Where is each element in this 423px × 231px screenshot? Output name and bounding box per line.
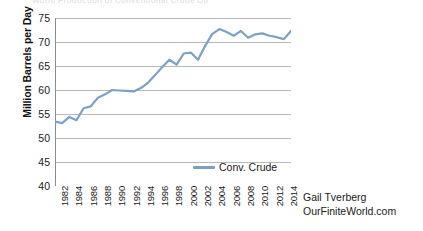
- x-axis-tick-label: 1996: [159, 186, 170, 206]
- y-axis-tick-labels: 4045505560657075: [24, 0, 50, 231]
- chart-container: World Production of Conventional Crude O…: [0, 0, 423, 231]
- x-axis-tick-label: 1986: [88, 186, 99, 206]
- x-axis-tick-label: 1982: [59, 186, 70, 206]
- x-axis-tick-label: 1998: [173, 186, 184, 206]
- y-axis-tick-label: 40: [38, 180, 50, 192]
- legend-label-conv-crude: Conv. Crude: [219, 161, 277, 173]
- y-axis-tick-label: 50: [38, 132, 50, 144]
- x-axis-tick-label: 1988: [102, 186, 113, 206]
- clipped-header-text: World Production of Conventional Crude O…: [32, 0, 362, 3]
- attribution: Gail Tverberg OurFiniteWorld.com: [303, 190, 396, 218]
- x-axis-tick-labels: 1982198419861988199019921994199619982000…: [55, 186, 291, 231]
- x-axis-tick-label: 2000: [188, 186, 199, 206]
- chart-legend: Conv. Crude: [193, 161, 277, 173]
- y-axis-tick-label: 75: [38, 12, 50, 24]
- x-axis-tick-label: 1992: [131, 186, 142, 206]
- x-axis-tick-label: 2014: [288, 186, 299, 206]
- x-axis-tick-label: 2012: [274, 186, 285, 206]
- y-axis-tick-label: 55: [38, 108, 50, 120]
- y-axis-tick-label: 60: [38, 84, 50, 96]
- x-axis-tick-label: 2006: [231, 186, 242, 206]
- legend-swatch-conv-crude: [193, 166, 215, 169]
- y-axis-tick-label: 45: [38, 156, 50, 168]
- y-axis-tick-label: 70: [38, 36, 50, 48]
- x-axis-tick-label: 2010: [259, 186, 270, 206]
- x-axis-tick-label: 2008: [245, 186, 256, 206]
- x-axis-tick-label: 1984: [73, 186, 84, 206]
- x-axis-tick-label: 2004: [216, 186, 227, 206]
- x-axis-tick-label: 1994: [145, 186, 156, 206]
- data-series: [55, 29, 291, 123]
- attribution-author: Gail Tverberg: [303, 190, 396, 204]
- attribution-site: OurFiniteWorld.com: [303, 204, 396, 218]
- y-axis-tick-label: 65: [38, 60, 50, 72]
- x-axis-tick-label: 1990: [116, 186, 127, 206]
- x-axis-tick-label: 2002: [202, 186, 213, 206]
